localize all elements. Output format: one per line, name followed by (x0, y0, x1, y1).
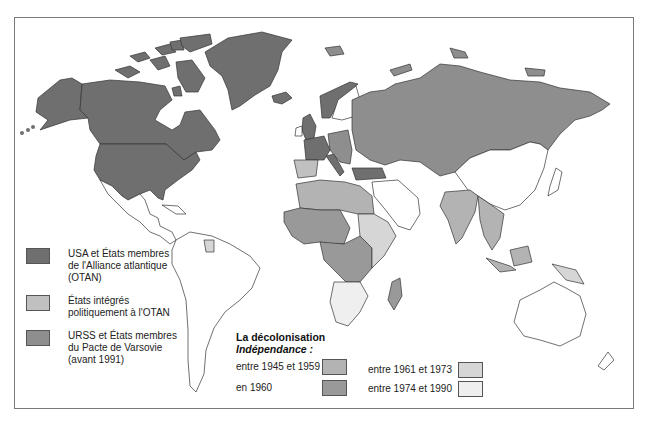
legend-label: URSS et États membres du Pacte de Varsov… (68, 330, 178, 366)
legend-swatch (26, 248, 50, 264)
india (440, 190, 478, 244)
australia (514, 282, 586, 346)
legend-label: entre 1961 et 1973 (368, 364, 452, 375)
legend-swatch-1945-1959 (322, 359, 347, 375)
legend-item-nato: USA et États membres de l'Alliance atlan… (26, 248, 178, 284)
legend-label: entre 1974 et 1990 (368, 383, 452, 394)
africa-central (320, 236, 372, 282)
legend-label: USA et États membres de l'Alliance atlan… (68, 248, 178, 284)
legend-swatch (26, 330, 50, 346)
africa-west (284, 208, 350, 244)
indonesia (486, 258, 516, 272)
legend-swatch (26, 295, 50, 311)
iberia (294, 160, 318, 178)
legend-decolonisation: La décolonisation Indépendance : entre 1… (236, 331, 496, 401)
legend-item-ussr: URSS et États membres du Pacte de Varsov… (26, 330, 178, 366)
legend-swatch-1961-1973 (458, 362, 483, 378)
legend-swatch-1960 (322, 380, 347, 396)
africa-south (330, 282, 368, 326)
legend-swatch-1974-1990 (458, 381, 483, 397)
legend-label: entre 1945 et 1959 (236, 361, 320, 372)
legend-label: États intégrés politiquement à l'OTAN (68, 295, 178, 319)
legend-item-nato-integrated: États intégrés politiquement à l'OTAN (26, 295, 178, 319)
turkey (352, 168, 386, 180)
uk (302, 114, 316, 140)
legend-subtitle: Indépendance : (236, 343, 313, 355)
madagascar (388, 278, 402, 310)
legend-title: La décolonisation (236, 331, 325, 343)
legend-label: en 1960 (236, 382, 272, 393)
